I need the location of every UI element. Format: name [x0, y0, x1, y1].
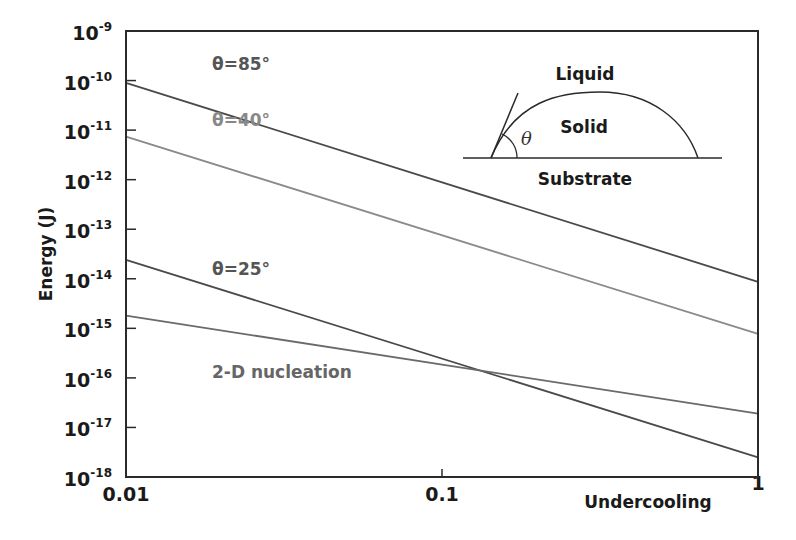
angle-theta-label: θ	[521, 128, 532, 149]
series-label: θ=25°	[212, 259, 270, 279]
series-line	[126, 137, 758, 334]
plot-frame	[126, 31, 758, 477]
y-tick-label: 10-11	[64, 119, 112, 143]
inset-liquid-label: Liquid	[556, 64, 615, 84]
nucleation-energy-chart: 10-910-1010-1110-1210-1310-1410-1510-161…	[0, 0, 796, 540]
x-tick-label: 0.1	[425, 483, 459, 505]
series-label: 2-D nucleation	[212, 362, 352, 382]
x-axis-title: Undercooling	[584, 492, 711, 512]
y-tick-label: 10-16	[64, 367, 112, 391]
y-tick-label: 10-14	[64, 268, 112, 292]
inset-substrate-label: Substrate	[538, 169, 632, 189]
series-line	[126, 260, 758, 457]
contact-angle-inset: θ Liquid Solid Substrate	[463, 64, 722, 189]
y-tick-label: 10-17	[64, 416, 112, 440]
x-tick-label: 0.01	[103, 483, 150, 505]
series-label: θ=40°	[212, 110, 270, 130]
tangent-line	[491, 93, 518, 158]
y-tick-label: 10-12	[64, 169, 112, 193]
series-label: θ=85°	[212, 54, 270, 74]
angle-arc	[502, 134, 517, 158]
y-tick-label: 10-10	[64, 70, 112, 94]
y-tick-label: 10-13	[64, 218, 112, 242]
inset-solid-label: Solid	[560, 117, 608, 137]
y-tick-label: 10-9	[72, 20, 112, 44]
y-tick-label: 10-15	[64, 317, 112, 341]
y-axis-title: Energy (J)	[36, 207, 56, 302]
